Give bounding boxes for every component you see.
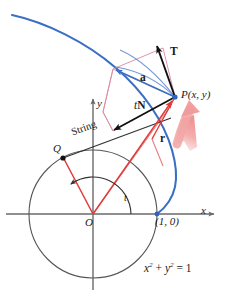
angle-t-label: t	[124, 193, 127, 203]
vector-T-label: T	[170, 46, 178, 58]
circle-equation: x2 + y2 = 1	[144, 262, 192, 274]
point-Q-label: Q	[53, 143, 61, 154]
vector-r-label: r	[160, 133, 165, 145]
equation-plus: +	[153, 262, 165, 274]
point-one-zero-label: (1, 0)	[155, 216, 179, 227]
equation-rhs: = 1	[174, 262, 192, 274]
radius-OQ	[64, 159, 93, 214]
figure-canvas	[0, 0, 238, 308]
point-Q-dot	[60, 155, 65, 160]
motion-direction-arrow	[173, 100, 200, 151]
x-axis-label: x	[201, 205, 206, 216]
vector-tN-label: tN	[134, 100, 146, 112]
point-P-label: P(x, y)	[181, 89, 210, 100]
vector-tN-normal: N	[137, 99, 145, 111]
origin-label: O	[85, 217, 93, 228]
angle-t-arc	[71, 177, 131, 214]
involute-figure: x y O P(x, y) Q (1, 0) t String r T a tN…	[0, 0, 238, 308]
point-P-dot	[172, 94, 177, 99]
vector-a-label: a	[140, 72, 146, 84]
y-axis-label: y	[97, 98, 102, 109]
